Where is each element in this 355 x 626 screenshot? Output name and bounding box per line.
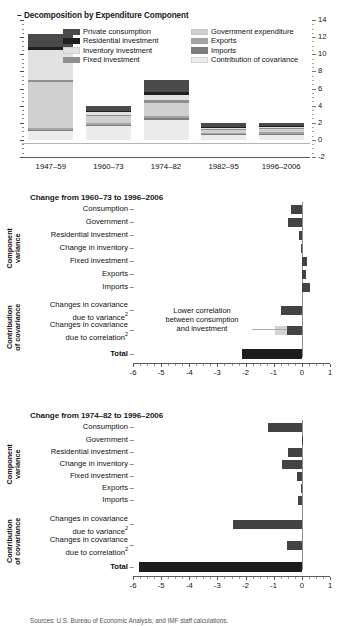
x-tick	[295, 577, 296, 579]
x-tick	[210, 577, 211, 579]
panel1-bar-segment	[259, 135, 304, 140]
bar	[268, 423, 302, 432]
row-label: Changes in covariance	[50, 321, 128, 330]
row-label: Government	[86, 436, 128, 445]
x-tick	[281, 577, 282, 579]
panel1-right-tick	[312, 84, 314, 85]
row-label: Consumption	[83, 423, 128, 432]
x-tick	[295, 364, 296, 366]
panel1-legend-label: Contribution of covariance	[211, 55, 298, 64]
zero-line	[302, 202, 303, 357]
panel1-right-tick	[312, 67, 314, 68]
panel1-legend-swatch	[191, 29, 208, 36]
row-label: Government	[86, 218, 128, 227]
row-tick-dash: –	[130, 230, 134, 239]
x-tick	[323, 577, 324, 579]
row-tick-dash: –	[130, 483, 134, 492]
x-tick	[140, 577, 141, 579]
row-label: Change in inventory	[60, 460, 128, 469]
x-tick	[323, 364, 324, 366]
panel1-right-tick	[312, 131, 314, 132]
panel1-title: Decomposition by Expenditure Component	[24, 11, 189, 20]
x-tick	[281, 364, 282, 366]
group-caption-line2: variance	[14, 220, 22, 276]
panel1-right-tick	[312, 71, 316, 72]
x-tick-label: -2	[238, 368, 254, 377]
panel1-legend-label: Residential investment	[83, 36, 158, 45]
row-tick-dash: –	[130, 349, 134, 358]
footnote-marker: 2	[125, 311, 128, 317]
x-tick-label: 0	[294, 368, 310, 377]
panel2-plot-area	[133, 202, 330, 357]
x-tick-label: -1	[266, 581, 282, 590]
row-label: Fixed investment	[70, 472, 128, 481]
panel2-annotation-line2: between consumption	[150, 315, 254, 324]
panel1-bar-segment	[201, 135, 246, 140]
panel1-right-tick	[312, 114, 314, 115]
row-label: Exports	[102, 270, 128, 279]
panel1-ytick-label: 2	[318, 119, 322, 127]
bar	[288, 448, 302, 457]
panel-change-1960-73: Change from 1960–73 to 1996–2006 Lower c…	[0, 182, 355, 400]
footnote-marker: 2	[125, 525, 128, 531]
x-tick	[196, 577, 197, 579]
x-tick-label: -1	[266, 368, 282, 377]
x-tick	[330, 577, 331, 580]
row-tick-dash: –	[130, 435, 134, 444]
panel2-title: Change from 1960–73 to 1996–2006	[30, 193, 163, 202]
x-tick	[239, 364, 240, 366]
bar	[287, 541, 302, 550]
x-tick-label: -6	[125, 368, 141, 377]
panel2-annotation: Lower correlation between consumption an…	[150, 306, 254, 333]
row-tick-dash: –	[130, 540, 134, 549]
panel1-right-axis: 14121086420-2	[312, 20, 354, 160]
x-tick	[140, 364, 141, 366]
row-label: Imports	[102, 283, 128, 292]
panel1-right-tick	[312, 97, 314, 98]
panel3-title: Change from 1974–82 to 1996–2006	[30, 411, 163, 420]
x-tick-label: -2	[238, 581, 254, 590]
row-label: Total	[110, 350, 128, 359]
x-tick	[210, 364, 211, 366]
panel1-bar-segment	[28, 82, 73, 128]
x-tick	[288, 577, 289, 579]
x-tick	[133, 577, 134, 580]
panel2-annotation-line3: and investment	[150, 324, 254, 333]
panel1-legend-swatch	[63, 57, 80, 64]
panel1-right-tick	[312, 101, 314, 102]
panel1-right-tick	[312, 118, 314, 119]
x-tick-label: -6	[125, 581, 141, 590]
panel1-right-tick	[312, 153, 314, 154]
x-tick	[224, 577, 225, 579]
x-tick	[302, 577, 303, 580]
row-tick-dash: –	[130, 305, 134, 314]
bar	[301, 484, 302, 493]
panel1-ytick-label: 0	[318, 136, 322, 144]
x-tick	[175, 364, 176, 366]
panel1-legend-label: Inventory investment	[83, 46, 152, 55]
x-tick	[274, 577, 275, 580]
panel1-bar-segment	[86, 116, 131, 123]
row-label: Consumption	[83, 205, 128, 214]
panel1-legend: Private consumptionResidential investmen…	[63, 27, 315, 67]
bar-light-segment	[275, 326, 287, 335]
panel1-legend-swatch	[191, 38, 208, 45]
panel1-right-tick	[312, 144, 314, 145]
panel1-legend-label: Private consumption	[83, 27, 151, 36]
group-caption-component-variance: Componentvariance	[6, 436, 22, 492]
x-tick	[154, 364, 155, 366]
panel1-right-tick	[312, 76, 314, 77]
bar	[297, 472, 302, 481]
x-tick	[232, 364, 233, 366]
panel1-zero-line	[22, 143, 310, 144]
row-label: Total	[110, 563, 128, 572]
bar	[302, 270, 306, 279]
row-tick-dash: –	[130, 459, 134, 468]
panel1-legend-label: Exports	[211, 36, 236, 45]
panel1-stacked-bar	[201, 123, 246, 140]
row-tick-dash: –	[130, 217, 134, 226]
x-tick-label: -3	[209, 581, 225, 590]
row-tick-dash: –	[130, 471, 134, 480]
row-label: Residential investment	[51, 231, 128, 240]
panel1-legend-swatch	[63, 47, 80, 54]
